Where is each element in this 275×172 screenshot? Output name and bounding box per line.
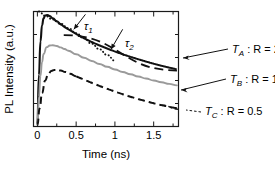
x-tick-label: 1 xyxy=(112,129,118,141)
x-tick-label: 0 xyxy=(34,129,40,141)
legend-tail-tc: : R = 0.5 xyxy=(218,105,263,117)
legend-tail-ta: : R = 2 xyxy=(244,43,275,55)
y-axis-title: PL Intensity (a.u.) xyxy=(3,24,15,114)
chart-canvas: 00.511.5 Time (ns) PL Intensity (a.u.) T… xyxy=(0,0,275,172)
pl-decay-figure: 00.511.5 Time (ns) PL Intensity (a.u.) T… xyxy=(0,0,275,172)
legend-tail-tb: : R = 1 xyxy=(242,73,275,85)
x-tick-label: 0.5 xyxy=(68,129,83,141)
x-tick-label: 1.5 xyxy=(146,129,161,141)
x-axis-title: Time (ns) xyxy=(82,148,130,160)
